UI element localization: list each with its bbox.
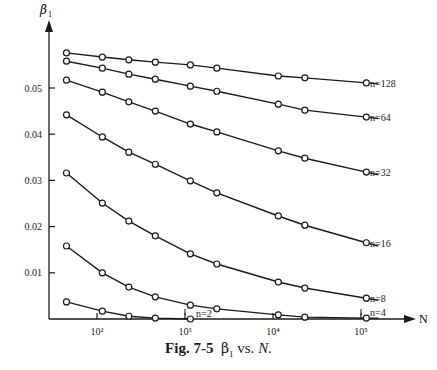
data-point-marker — [126, 57, 132, 63]
data-point-marker — [152, 108, 158, 114]
data-point-marker — [214, 190, 220, 196]
y-tick-label: 0.01 — [25, 267, 43, 278]
data-point-marker — [214, 88, 220, 94]
data-point-marker — [152, 76, 158, 82]
figure-caption: Fig. 7-5 β1 vs. N. — [0, 340, 437, 359]
data-point-marker — [214, 306, 220, 312]
data-point-marker — [187, 251, 193, 257]
curves — [63, 50, 378, 322]
y-tick-label: 0.02 — [25, 221, 43, 232]
x-axis-title: N — [419, 312, 428, 326]
data-point-marker — [126, 313, 132, 319]
data-point-marker — [187, 178, 193, 184]
x-tick-label: 10³ — [179, 326, 192, 337]
vs-text: vs. — [234, 340, 259, 356]
data-point-marker — [275, 279, 281, 285]
x-axis-arrow-icon — [404, 315, 416, 323]
curve-n8 — [66, 173, 378, 300]
data-point-marker — [275, 312, 281, 318]
data-point-marker — [152, 294, 158, 300]
data-point-marker — [363, 80, 369, 86]
data-point-marker — [214, 65, 220, 71]
data-point-marker — [63, 112, 69, 118]
data-point-marker — [214, 129, 220, 135]
y-tick-label: 0.05 — [25, 83, 43, 94]
data-point-marker — [363, 169, 369, 175]
data-point-marker — [63, 299, 69, 305]
data-point-marker — [126, 149, 132, 155]
data-point-marker — [63, 77, 69, 83]
data-point-marker — [187, 302, 193, 308]
data-point-marker — [275, 101, 281, 107]
y-axis-title: β — [39, 3, 47, 17]
data-point-marker — [363, 295, 369, 301]
curve-label-n128: n=128 — [370, 78, 396, 89]
data-point-marker — [126, 284, 132, 290]
data-point-marker — [99, 54, 105, 60]
x-tick-label: 10² — [91, 326, 104, 337]
data-point-marker — [363, 240, 369, 246]
data-point-marker — [63, 50, 69, 56]
data-point-marker — [152, 59, 158, 65]
data-point-marker — [187, 316, 193, 322]
curve-n32 — [66, 80, 378, 175]
data-point-marker — [99, 65, 105, 71]
curve-n16 — [66, 115, 378, 246]
data-point-marker — [302, 107, 308, 113]
data-point-marker — [302, 155, 308, 161]
data-point-marker — [126, 218, 132, 224]
data-point-marker — [99, 89, 105, 95]
data-point-marker — [214, 261, 220, 267]
n-text: N. — [258, 340, 272, 356]
data-point-marker — [275, 73, 281, 79]
curve-label-n32: n=32 — [370, 167, 391, 178]
data-point-marker — [63, 243, 69, 249]
curve-label-n8: n=8 — [370, 293, 386, 304]
curve-label-n16: n=16 — [370, 238, 391, 249]
data-point-marker — [99, 308, 105, 314]
y-tick-label: 0.04 — [25, 129, 43, 140]
data-point-marker — [99, 134, 105, 140]
curve-n4 — [66, 246, 378, 318]
data-point-marker — [302, 222, 308, 228]
data-point-marker — [99, 200, 105, 206]
x-tick-label: 10⁵ — [354, 326, 368, 337]
data-point-marker — [152, 233, 158, 239]
data-point-marker — [152, 161, 158, 167]
chart: β1N0.010.020.030.040.0510²10³10⁴10⁵n=128… — [0, 0, 437, 340]
data-point-marker — [187, 83, 193, 89]
data-point-marker — [275, 213, 281, 219]
data-point-marker — [63, 58, 69, 64]
x-tick-label: 10⁴ — [266, 326, 280, 337]
data-point-marker — [63, 170, 69, 176]
data-point-marker — [302, 285, 308, 291]
data-point-marker — [99, 270, 105, 276]
data-point-marker — [275, 148, 281, 154]
curve-n128 — [66, 53, 378, 84]
y-axis-title-subscript: 1 — [48, 10, 52, 19]
figure-number: Fig. 7-5 — [165, 340, 213, 356]
curve-label-n64: n=64 — [370, 112, 391, 123]
data-point-marker — [126, 71, 132, 77]
data-point-marker — [363, 315, 369, 321]
curve-label-n2: n=2 — [196, 308, 212, 319]
data-point-marker — [187, 121, 193, 127]
y-axis-arrow-icon — [45, 20, 53, 32]
curve-label-n4: n=4 — [370, 307, 386, 318]
data-point-marker — [302, 75, 308, 81]
data-point-marker — [363, 114, 369, 120]
beta-symbol: β — [221, 340, 229, 356]
data-point-marker — [152, 315, 158, 321]
data-point-marker — [187, 62, 193, 68]
data-point-marker — [126, 99, 132, 105]
data-point-marker — [302, 314, 308, 320]
y-tick-label: 0.03 — [25, 175, 43, 186]
curve-n64 — [66, 61, 378, 118]
